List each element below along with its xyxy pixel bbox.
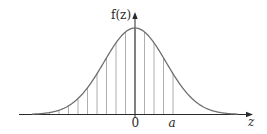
x-axis-label: z <box>247 115 255 129</box>
y-axis-label: f(z) <box>111 8 131 22</box>
normal-distribution-diagram: f(z) z 0 a <box>0 0 267 134</box>
tick-label-zero: 0 <box>132 116 140 130</box>
tick-label-a: a <box>169 116 176 130</box>
y-axis-arrow-icon <box>132 12 137 19</box>
